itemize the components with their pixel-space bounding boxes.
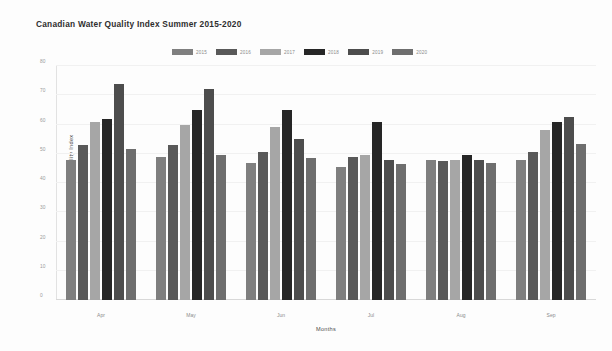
bar-May-2017[interactable]	[180, 125, 191, 301]
x-axis-tick-Apr: Apr	[97, 312, 105, 318]
legend-label-2017: 2017	[284, 50, 295, 55]
bar-group-Jun: Jun	[236, 66, 326, 300]
bar-Sep-2015[interactable]	[516, 160, 527, 300]
bar-Apr-2017[interactable]	[90, 122, 101, 300]
bar-Apr-2015[interactable]	[66, 160, 77, 300]
bar-group-Jul: Jul	[326, 66, 416, 300]
legend-swatch-2016	[216, 49, 237, 56]
x-axis-tick-Aug: Aug	[457, 312, 466, 318]
x-axis-tick-Sep: Sep	[547, 312, 556, 318]
bar-group-Sep: Sep	[506, 66, 596, 300]
y-axis-tick-0: 0	[40, 293, 43, 298]
bar-Jul-2015[interactable]	[336, 167, 347, 300]
bar-Jun-2019[interactable]	[294, 139, 305, 300]
legend-item-2015[interactable]: 2015	[172, 49, 207, 56]
bar-Sep-2017[interactable]	[540, 130, 551, 300]
legend-label-2015: 2015	[196, 50, 207, 55]
legend-item-2020[interactable]: 2020	[392, 49, 427, 56]
bar-group-May: May	[146, 66, 236, 300]
bar-May-2018[interactable]	[192, 110, 203, 300]
x-axis-tick-Jul: Jul	[368, 312, 374, 318]
bar-Jul-2020[interactable]	[396, 164, 407, 300]
bar-Jun-2018[interactable]	[282, 110, 293, 300]
legend-swatch-2020	[392, 49, 413, 56]
bar-Sep-2019[interactable]	[564, 117, 575, 300]
bar-Sep-2018[interactable]	[552, 122, 563, 300]
legend-swatch-2017	[260, 49, 281, 56]
y-axis-tick-60: 60	[40, 117, 45, 122]
legend-swatch-2015	[172, 49, 193, 56]
bar-May-2015[interactable]	[156, 157, 167, 300]
y-axis-tick-10: 10	[40, 263, 45, 268]
bar-Jul-2019[interactable]	[384, 160, 395, 300]
y-axis-tick-70: 70	[40, 88, 45, 93]
x-axis-tick-Jun: Jun	[277, 312, 285, 318]
legend-swatch-2018	[304, 49, 325, 56]
legend-item-2019[interactable]: 2019	[348, 49, 383, 56]
bar-May-2020[interactable]	[216, 155, 227, 300]
x-axis-tick-May: May	[186, 312, 195, 318]
bar-Jul-2016[interactable]	[348, 157, 359, 300]
bar-group-Aug: Aug	[416, 66, 506, 300]
chart-legend: 201520162017201820192020	[172, 47, 427, 57]
legend-swatch-2019	[348, 49, 369, 56]
bar-May-2016[interactable]	[168, 145, 179, 300]
bar-groups: AprMayJunJulAugSep	[56, 66, 596, 300]
bar-Aug-2015[interactable]	[426, 160, 437, 300]
legend-item-2016[interactable]: 2016	[216, 49, 251, 56]
legend-label-2018: 2018	[328, 50, 339, 55]
bar-Apr-2018[interactable]	[102, 119, 113, 300]
y-axis-tick-30: 30	[40, 205, 45, 210]
bar-Jul-2018[interactable]	[372, 122, 383, 300]
bar-Jun-2017[interactable]	[270, 127, 281, 300]
legend-item-2018[interactable]: 2018	[304, 49, 339, 56]
bar-Aug-2017[interactable]	[450, 160, 461, 300]
plot-area: 01020304050607080 AprMayJunJulAugSep	[56, 66, 596, 300]
bar-Sep-2016[interactable]	[528, 152, 539, 300]
bar-Aug-2016[interactable]	[438, 161, 449, 300]
bar-Jul-2017[interactable]	[360, 155, 371, 300]
bar-Apr-2020[interactable]	[126, 149, 137, 300]
bar-Apr-2016[interactable]	[78, 145, 89, 300]
bar-May-2019[interactable]	[204, 89, 215, 300]
legend-item-2017[interactable]: 2017	[260, 49, 295, 56]
legend-label-2019: 2019	[372, 50, 383, 55]
bar-Sep-2020[interactable]	[576, 144, 587, 300]
x-axis-label: Months	[56, 326, 596, 332]
y-axis-tick-50: 50	[40, 146, 45, 151]
bar-Aug-2020[interactable]	[486, 163, 497, 300]
y-axis-tick-20: 20	[40, 234, 45, 239]
y-axis-tick-80: 80	[40, 59, 45, 64]
page-title: Canadian Water Quality Index Summer 2015…	[36, 19, 242, 29]
y-axis-tick-40: 40	[40, 176, 45, 181]
legend-label-2016: 2016	[240, 50, 251, 55]
legend-label-2020: 2020	[416, 50, 427, 55]
bar-Apr-2019[interactable]	[114, 84, 125, 300]
chart-figure: Canadian Water Quality Index Summer 2015…	[0, 0, 612, 351]
bar-Jun-2015[interactable]	[246, 163, 257, 300]
bar-Aug-2018[interactable]	[462, 155, 473, 300]
bar-Jun-2016[interactable]	[258, 152, 269, 300]
bar-Jun-2020[interactable]	[306, 158, 317, 300]
bar-Aug-2019[interactable]	[474, 160, 485, 300]
bar-group-Apr: Apr	[56, 66, 146, 300]
